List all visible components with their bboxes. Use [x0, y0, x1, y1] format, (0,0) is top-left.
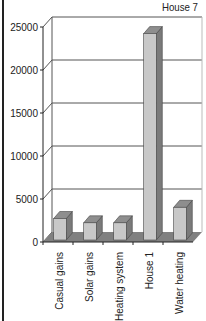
x-tick-label: Casual gains	[54, 252, 65, 310]
chart-plot: 0500010000150002000025000Casual gainsSol…	[0, 0, 206, 321]
gridline-side	[43, 17, 52, 27]
gridline-side	[43, 60, 52, 70]
gridline-side	[43, 189, 52, 199]
bar	[174, 207, 187, 240]
y-tick-label: 25000	[10, 22, 38, 33]
bar	[144, 34, 157, 240]
y-tick-label: 15000	[10, 108, 38, 119]
x-tick-label: Water heating	[174, 252, 185, 314]
x-tick-label: Solar gains	[84, 252, 95, 302]
gridline-side	[43, 103, 52, 113]
y-tick-label: 10000	[10, 151, 38, 162]
y-tick-label: 0	[32, 237, 38, 248]
bar	[114, 223, 127, 240]
bar	[54, 219, 67, 241]
bar	[84, 223, 97, 240]
gridline-side	[43, 146, 52, 156]
x-tick-label: House 1	[144, 252, 155, 290]
y-tick-label: 5000	[16, 194, 39, 205]
bar-side	[156, 27, 162, 240]
y-tick-label: 20000	[10, 65, 38, 76]
x-tick-label: Heating system	[114, 252, 125, 321]
